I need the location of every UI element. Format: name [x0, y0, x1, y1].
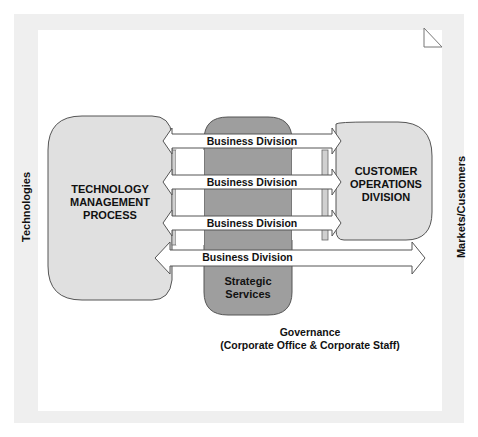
technologies-axis-label: Technologies	[20, 172, 32, 242]
strategic-services-label: Strategic Services	[204, 275, 292, 301]
customer-operations-label: CUSTOMER OPERATIONS DIVISION	[340, 165, 432, 204]
technology-management-label: TECHNOLOGY MANAGEMENT PROCESS	[56, 183, 164, 222]
business-division-label-2: Business Division	[172, 176, 332, 188]
governance-label: Governance (Corporate Office & Corporate…	[200, 326, 420, 352]
business-division-label-1: Business Division	[172, 135, 332, 147]
business-division-label-4: Business Division	[170, 251, 325, 263]
page-corner-triangle-icon	[424, 28, 442, 47]
business-division-label-3: Business Division	[172, 217, 332, 229]
markets-customers-axis-label: Markets/Customers	[455, 152, 467, 262]
